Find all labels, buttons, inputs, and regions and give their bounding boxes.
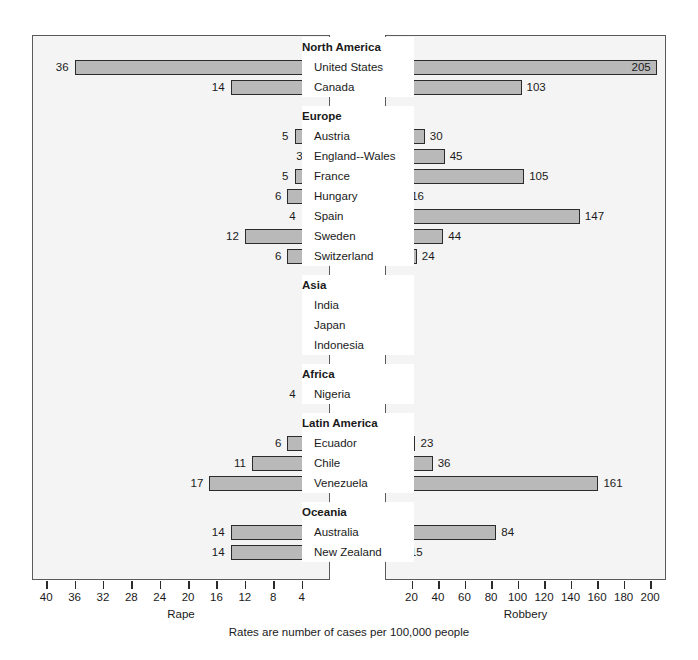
axis-tick xyxy=(650,581,652,589)
rape-bar-value: 6 xyxy=(241,249,281,264)
country-label: Hungary xyxy=(302,186,414,206)
country-label: Sweden xyxy=(302,226,414,246)
axis-tick xyxy=(160,581,162,589)
country-label: Japan xyxy=(302,315,414,335)
country-label: Canada xyxy=(302,77,414,97)
rape-bar-value: 14 xyxy=(185,80,225,95)
country-label: Indonesia xyxy=(302,335,414,355)
robbery-bar-value: 23 xyxy=(420,436,460,451)
axis-tick xyxy=(597,581,599,589)
rape-x-axis: Rape 403632282420161284 xyxy=(32,581,330,621)
country-label: New Zealand xyxy=(302,542,414,562)
country-label: India xyxy=(302,295,414,315)
robbery-bar-value: 16 xyxy=(411,189,451,204)
robbery-bar xyxy=(385,476,598,491)
robbery-bar xyxy=(385,209,580,224)
robbery-bar-value: 30 xyxy=(430,129,470,144)
axis-tick xyxy=(46,581,48,589)
rape-bar-value: 14 xyxy=(185,545,225,560)
axis-tick xyxy=(624,581,626,589)
rape-bar-value: 17 xyxy=(163,476,203,491)
country-label: Ecuador xyxy=(302,433,414,453)
robbery-bar-value: 84 xyxy=(501,525,541,540)
crime-rate-comparison-figure: 3614535641261214611171414 20510330451051… xyxy=(0,0,698,660)
country-label: England--Wales xyxy=(302,146,414,166)
region-heading: Oceania xyxy=(302,502,414,522)
rape-bar-value: 12 xyxy=(199,229,239,244)
rape-bar xyxy=(75,60,330,75)
robbery-bar-value: 44 xyxy=(448,229,488,244)
axis-tick xyxy=(131,581,133,589)
rape-bar-value: 4 xyxy=(256,387,296,402)
country-label: Spain xyxy=(302,206,414,226)
axis-tick xyxy=(438,581,440,589)
axis-tick xyxy=(216,581,218,589)
region-heading: Europe xyxy=(302,106,414,126)
axis-tick xyxy=(465,581,467,589)
axis-tick xyxy=(571,581,573,589)
country-label: Austria xyxy=(302,126,414,146)
country-label: France xyxy=(302,166,414,186)
axis-tick xyxy=(245,581,247,589)
axis-tick xyxy=(518,581,520,589)
robbery-bar-value: 15 xyxy=(410,545,450,560)
robbery-bar-value: 24 xyxy=(422,249,462,264)
axis-tick xyxy=(273,581,275,589)
robbery-x-axis: Robbery 20406080100120140160180200 xyxy=(385,581,666,621)
region-heading: North America xyxy=(302,37,414,57)
rape-bar-value: 36 xyxy=(29,60,69,75)
rape-bar-value: 3 xyxy=(263,149,303,164)
axis-tick-label: 200 xyxy=(630,591,670,603)
axis-tick-label: 4 xyxy=(282,591,322,603)
robbery-bar-value: 45 xyxy=(450,149,490,164)
robbery-bar-value: 147 xyxy=(585,209,625,224)
rape-bar-value: 14 xyxy=(185,525,225,540)
rape-bar-value: 4 xyxy=(256,209,296,224)
rape-axis-title: Rape xyxy=(32,608,330,620)
robbery-axis-title: Robbery xyxy=(385,608,666,620)
figure-caption: Rates are number of cases per 100,000 pe… xyxy=(0,626,698,638)
region-heading: Asia xyxy=(302,275,414,295)
robbery-bar-value: 105 xyxy=(529,169,569,184)
country-label: Australia xyxy=(302,522,414,542)
country-label: Nigeria xyxy=(302,384,414,404)
axis-tick xyxy=(412,581,414,589)
region-heading: Africa xyxy=(302,364,414,384)
rape-bar-value: 5 xyxy=(249,169,289,184)
robbery-bar-value: 161 xyxy=(603,476,643,491)
robbery-bar-value: 36 xyxy=(438,456,478,471)
axis-tick xyxy=(188,581,190,589)
axis-tick xyxy=(544,581,546,589)
country-label: Venezuela xyxy=(302,473,414,493)
category-label-column: North AmericaUnited StatesCanadaEuropeAu… xyxy=(330,35,385,580)
country-label: Chile xyxy=(302,453,414,473)
axis-tick xyxy=(103,581,105,589)
robbery-bar-value: 205 xyxy=(613,60,651,75)
region-heading: Latin America xyxy=(302,413,414,433)
country-label: United States xyxy=(302,57,414,77)
rape-bar-value: 6 xyxy=(241,436,281,451)
rape-bar-value: 6 xyxy=(241,189,281,204)
rape-bar-value: 5 xyxy=(249,129,289,144)
axis-tick xyxy=(302,581,304,589)
rape-bar-value: 11 xyxy=(206,456,246,471)
axis-tick xyxy=(75,581,77,589)
category-labels: North AmericaUnited StatesCanadaEuropeAu… xyxy=(302,35,414,580)
country-label: Switzerland xyxy=(302,246,414,266)
axis-tick xyxy=(491,581,493,589)
robbery-bar-value: 103 xyxy=(527,80,567,95)
